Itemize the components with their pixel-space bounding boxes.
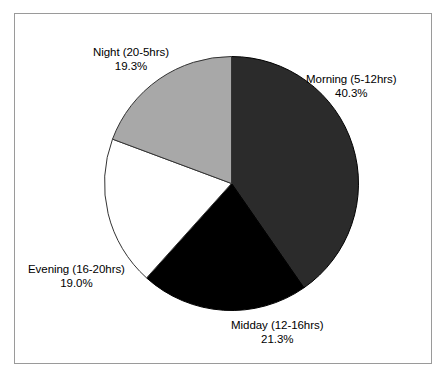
pie-label-evening: Evening (16-20hrs) 19.0% (28, 262, 125, 290)
pie-label-morning-value: 40.3% (306, 86, 397, 100)
pie-label-night-value: 19.3% (93, 59, 169, 73)
pie-label-evening-value: 19.0% (28, 276, 125, 290)
pie-chart-figure: Morning (5-12hrs) 40.3% Midday (12-16hrs… (0, 0, 447, 379)
pie-label-night-name: Night (20-5hrs) (93, 45, 169, 59)
pie-label-midday-name: Midday (12-16hrs) (231, 318, 323, 332)
pie-label-evening-name: Evening (16-20hrs) (28, 262, 125, 276)
pie-label-midday: Midday (12-16hrs) 21.3% (231, 318, 323, 346)
pie-label-morning: Morning (5-12hrs) 40.3% (306, 72, 397, 100)
pie-label-night: Night (20-5hrs) 19.3% (93, 45, 169, 73)
pie-chart-graphic (0, 0, 447, 379)
pie-label-midday-value: 21.3% (231, 332, 323, 346)
pie-label-morning-name: Morning (5-12hrs) (306, 72, 397, 86)
